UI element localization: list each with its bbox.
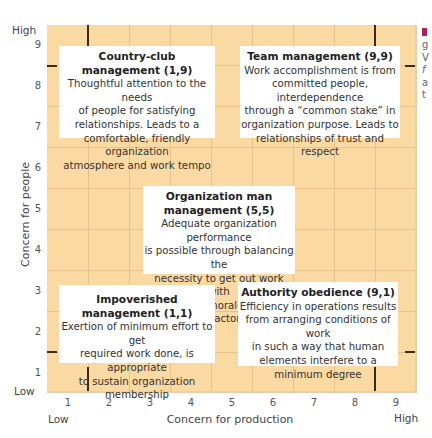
x-axis-title: Concern for production	[150, 413, 310, 426]
corner-marker	[47, 65, 57, 67]
x-tick: 2	[102, 397, 116, 408]
style-desc-line: to sustain organization	[59, 375, 215, 389]
caption-marker	[422, 28, 427, 36]
style-box-team: Team management (9,9) Work accomplishmen…	[240, 46, 400, 138]
style-desc-line: from arranging conditions of work	[238, 313, 398, 340]
x-tick: 9	[389, 397, 403, 408]
x-high-label: High	[394, 412, 418, 424]
caption-fragment: t	[422, 89, 432, 102]
style-box-country-club: Country-club management (1,9) Thoughtful…	[59, 46, 215, 138]
y-tick: 2	[33, 326, 43, 337]
y-tick: 7	[33, 121, 43, 132]
y-tick: 6	[33, 162, 43, 173]
style-desc-line: relationships of trust and respect	[240, 132, 400, 159]
style-desc-line: elements interfere to a	[238, 354, 398, 368]
y-tick: 8	[33, 80, 43, 91]
x-low-label: Low	[48, 413, 69, 425]
style-desc-line: organization purpose. Leads to	[240, 118, 400, 132]
style-desc-line: relationships. Leads to a	[59, 118, 215, 132]
y-low-label: Low	[14, 385, 35, 397]
style-desc-line: Adequate organization performance	[143, 217, 295, 244]
y-high-label: High	[12, 24, 36, 36]
style-desc-line: of people for satisfying	[59, 104, 215, 118]
style-title: Country-club management (1,9)	[59, 50, 215, 77]
style-box-authority-obedience: Authority obedience (9,1) Efficiency in …	[238, 282, 398, 366]
x-tick: 8	[348, 397, 362, 408]
x-tick: 5	[225, 397, 239, 408]
style-title: Authority obedience (9,1)	[238, 286, 398, 300]
caption-fragment: V	[422, 52, 432, 65]
style-desc-line: Exertion of minimum effort to get	[59, 320, 215, 347]
style-box-organization-man: Organization man management (5,5) Adequa…	[143, 186, 295, 274]
style-box-impoverished: Impoverished management (1,1) Exertion o…	[59, 285, 215, 363]
y-axis-title: Concern for people	[19, 155, 32, 275]
side-caption-fragment: g V f a t	[422, 26, 432, 102]
style-desc-line: required work done, is appropriate	[59, 347, 215, 374]
x-tick: 3	[143, 397, 157, 408]
style-desc-line: in such a way that human	[238, 340, 398, 354]
x-tick: 1	[61, 397, 75, 408]
style-desc-line: Work accomplishment is from	[240, 64, 400, 78]
y-tick: 9	[33, 39, 43, 50]
x-tick: 4	[184, 397, 198, 408]
style-desc-line: is possible through balancing the	[143, 244, 295, 271]
style-desc-line: Thoughtful attention to the needs	[59, 77, 215, 104]
style-desc-line: through a “common stake” in	[240, 104, 400, 118]
style-title: Team management (9,9)	[240, 50, 400, 64]
x-tick: 7	[307, 397, 321, 408]
x-tick: 6	[266, 397, 280, 408]
caption-fragment: g	[422, 39, 432, 52]
style-title: Impoverished management (1,1)	[59, 293, 215, 320]
style-desc-line: Efficiency in operations results	[238, 300, 398, 314]
corner-marker	[405, 351, 415, 353]
y-tick: 1	[33, 367, 43, 378]
corner-marker	[405, 65, 415, 67]
corner-marker	[47, 351, 57, 353]
style-desc-line: atmosphere and work tempo	[59, 159, 215, 173]
y-tick: 4	[33, 244, 43, 255]
style-title: Organization man management (5,5)	[143, 190, 295, 217]
style-desc-line: comfortable, friendly organization	[59, 132, 215, 159]
caption-fragment: a	[422, 77, 432, 90]
caption-fragment: f	[422, 64, 432, 77]
style-desc-line: committed people, interdependence	[240, 77, 400, 104]
y-tick: 3	[33, 285, 43, 296]
y-tick: 5	[33, 203, 43, 214]
style-desc-line: minimum degree	[238, 368, 398, 382]
